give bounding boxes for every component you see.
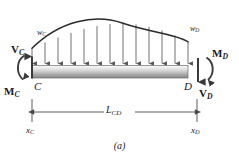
station-right-label: xD — [191, 126, 200, 136]
span-length-label: LCD — [106, 105, 121, 117]
beam-right-point-label: D — [184, 81, 192, 92]
moment-left-arc — [18, 56, 25, 80]
beam-free-body-diagram — [0, 0, 239, 154]
moment-right-label: MD — [212, 48, 228, 60]
beam-body — [32, 66, 188, 79]
moment-right-arc — [207, 58, 213, 81]
load-intensity-left-label: wC — [37, 29, 46, 38]
shear-force-left-label: VC — [11, 44, 24, 56]
load-intensity-right-label: wD — [190, 25, 199, 34]
figure-caption: (a) — [0, 141, 239, 151]
shear-force-right-label: VD — [199, 88, 213, 100]
station-left-label: xC — [26, 126, 34, 136]
beam-left-point-label: C — [34, 81, 41, 92]
distributed-load-arrows — [32, 24, 188, 64]
moment-left-label: MC — [4, 86, 20, 98]
